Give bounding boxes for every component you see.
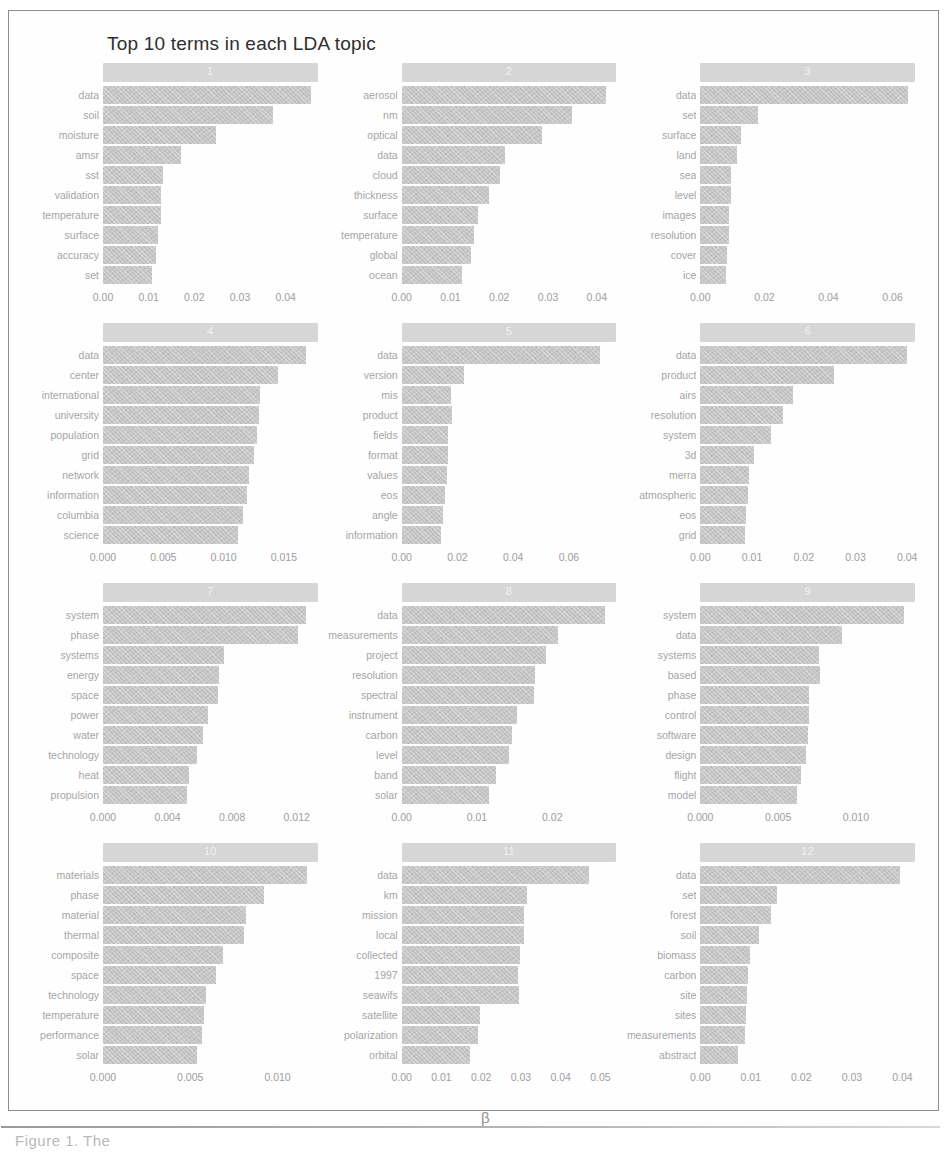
facet-strip-label: 5: [402, 325, 617, 337]
bar: [700, 866, 900, 884]
bar: [103, 186, 161, 204]
bar-row: technology: [27, 745, 318, 765]
bar: [402, 866, 590, 884]
bar-term-label: system: [624, 609, 696, 621]
bar-term-label: nm: [326, 109, 398, 121]
bar-term-label: system: [624, 429, 696, 441]
bar-row: product: [624, 365, 915, 385]
axis-tick-label: 0.00: [391, 1071, 411, 1083]
axis-tick-label: 0.04: [503, 551, 523, 563]
bar-term-label: ice: [624, 269, 696, 281]
bar-term-label: international: [27, 389, 99, 401]
bar: [700, 1026, 745, 1044]
bar-row: nm: [326, 105, 617, 125]
bar-row: product: [326, 405, 617, 425]
bar-term-label: data: [624, 349, 696, 361]
facet-strip-label: 11: [402, 845, 617, 857]
bar: [402, 86, 606, 104]
bar: [402, 186, 489, 204]
bar: [700, 86, 908, 104]
bar-term-label: forest: [624, 909, 696, 921]
bar-term-label: software: [624, 729, 696, 741]
bar-term-label: cover: [624, 249, 696, 261]
figure-caption: Figure 1. The: [15, 1132, 255, 1160]
bar-row: eos: [326, 485, 617, 505]
plot-area: datacenterinternationaluniversitypopulat…: [27, 345, 318, 545]
axis-tick-label: 0.00: [690, 551, 710, 563]
bar-row: data: [27, 85, 318, 105]
bar-term-label: temperature: [27, 209, 99, 221]
facet-strip-label: 6: [700, 325, 915, 337]
bar: [103, 686, 218, 704]
bar: [103, 786, 187, 804]
bar-term-label: set: [27, 269, 99, 281]
bar-term-label: data: [624, 89, 696, 101]
bar-term-label: data: [624, 629, 696, 641]
bar: [402, 346, 601, 364]
bar-term-label: design: [624, 749, 696, 761]
axis-tick-label: 0.010: [843, 811, 869, 823]
axis-tick-label: 0.00: [690, 1071, 710, 1083]
bar: [700, 726, 807, 744]
bar-row: carbon: [326, 725, 617, 745]
axis-tick-label: 0.01: [741, 1071, 761, 1083]
axis-tick-label: 0.01: [138, 291, 158, 303]
bar-row: material: [27, 905, 318, 925]
bar-term-label: soil: [624, 929, 696, 941]
bar-row: km: [326, 885, 617, 905]
bar-row: aerosol: [326, 85, 617, 105]
bar: [402, 246, 472, 264]
bar-row: eos: [624, 505, 915, 525]
bar-term-label: technology: [27, 749, 99, 761]
bar-row: soil: [624, 925, 915, 945]
facet-panel: 5dataversionmisproductfieldsformatvalues…: [326, 317, 625, 577]
facet-panel: 6dataproductairsresolutionsystem3dmerraa…: [624, 317, 923, 577]
bar-row: flight: [624, 765, 915, 785]
axis-tick-label: 0.000: [90, 551, 116, 563]
bar-row: instrument: [326, 705, 617, 725]
x-axis: 0.000.010.020.030.04: [103, 291, 318, 313]
bar-term-label: sites: [624, 1009, 696, 1021]
bar-row: power: [27, 705, 318, 725]
bar-row: information: [326, 525, 617, 545]
bar-row: temperature: [326, 225, 617, 245]
bar-term-label: grid: [27, 449, 99, 461]
bar-row: columbia: [27, 505, 318, 525]
bar: [402, 666, 535, 684]
bar-row: moisture: [27, 125, 318, 145]
bar: [103, 226, 158, 244]
bar: [402, 1046, 470, 1064]
bar: [402, 786, 489, 804]
bar: [700, 666, 820, 684]
bar-row: control: [624, 705, 915, 725]
bar: [700, 966, 747, 984]
axis-tick-label: 0.02: [542, 811, 562, 823]
facet-strip: 10: [103, 843, 318, 862]
bar-term-label: level: [624, 189, 696, 201]
bar-row: atmospheric: [624, 485, 915, 505]
bar-row: university: [27, 405, 318, 425]
bar-row: version: [326, 365, 617, 385]
bar-term-label: sst: [27, 169, 99, 181]
bar: [103, 866, 307, 884]
bar-term-label: sea: [624, 169, 696, 181]
bar-row: set: [27, 265, 318, 285]
bar-term-label: data: [27, 89, 99, 101]
axis-tick-label: 0.02: [794, 551, 814, 563]
facet-grid: 1datasoilmoistureamsrsstvalidationtemper…: [27, 57, 923, 1097]
bar-term-label: km: [326, 889, 398, 901]
bar-row: airs: [624, 385, 915, 405]
axis-tick-label: 0.02: [791, 1071, 811, 1083]
bar-row: values: [326, 465, 617, 485]
bar: [700, 626, 842, 644]
bar-row: data: [326, 345, 617, 365]
bar: [700, 906, 771, 924]
axis-tick-label: 0.010: [264, 1071, 290, 1083]
bar: [700, 226, 729, 244]
bar-row: validation: [27, 185, 318, 205]
plot-area: datakmmissionlocalcollected1997seawifssa…: [326, 865, 617, 1065]
bar-row: measurements: [624, 1025, 915, 1045]
bar-term-label: measurements: [326, 629, 398, 641]
bar-term-label: measurements: [624, 1029, 696, 1041]
bar: [700, 1046, 738, 1064]
